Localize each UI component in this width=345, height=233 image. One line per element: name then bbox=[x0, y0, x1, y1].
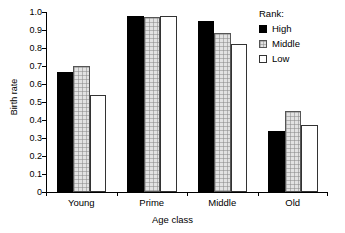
bar-middle-low[interactable] bbox=[231, 44, 248, 192]
legend-label-low: Low bbox=[272, 53, 289, 64]
x-axis-label: Age class bbox=[0, 214, 345, 225]
y-axis-tick bbox=[42, 30, 47, 31]
x-axis-tick bbox=[258, 192, 259, 196]
legend-label-high: High bbox=[272, 23, 292, 34]
bar-old-high[interactable] bbox=[268, 131, 285, 192]
bar-prime-high[interactable] bbox=[127, 16, 144, 192]
x-axis-category-label-old: Old bbox=[258, 197, 329, 208]
y-axis-tick-label: 0.4 bbox=[18, 116, 42, 125]
y-axis-tick-label: 0 bbox=[18, 188, 42, 197]
x-axis-tick bbox=[46, 192, 47, 196]
bar-old-low[interactable] bbox=[301, 125, 318, 192]
legend-title: Rank: bbox=[259, 8, 343, 19]
y-axis-tick-label: 0.1 bbox=[18, 170, 42, 179]
legend-item-high: High bbox=[259, 23, 343, 34]
x-axis-category-label-young: Young bbox=[46, 197, 117, 208]
y-axis-tick bbox=[42, 48, 47, 49]
x-axis-tick bbox=[117, 192, 118, 196]
y-axis-tick-labels: 00.10.20.30.40.50.60.70.80.91.0 bbox=[18, 0, 42, 233]
x-axis-tick bbox=[327, 192, 328, 196]
bar-prime-low[interactable] bbox=[160, 16, 177, 192]
bar-group-prime bbox=[127, 12, 177, 192]
bar-young-middle[interactable] bbox=[73, 66, 90, 192]
y-axis-tick-label: 0.6 bbox=[18, 80, 42, 89]
y-axis-tick-label: 0.2 bbox=[18, 152, 42, 161]
y-axis-tick bbox=[42, 66, 47, 67]
bar-old-middle[interactable] bbox=[285, 111, 302, 192]
legend-swatch-middle-icon bbox=[259, 40, 267, 48]
legend-label-middle: Middle bbox=[272, 38, 300, 49]
y-axis-tick-label: 1.0 bbox=[18, 8, 42, 17]
bar-middle-high[interactable] bbox=[198, 21, 215, 192]
y-axis-tick-label: 0.7 bbox=[18, 62, 42, 71]
legend-swatch-low-icon bbox=[259, 55, 267, 63]
y-axis-tick-label: 0.5 bbox=[18, 98, 42, 107]
x-axis-tick bbox=[187, 192, 188, 196]
y-axis-tick bbox=[42, 12, 47, 13]
bar-prime-middle[interactable] bbox=[144, 17, 161, 192]
y-axis-tick bbox=[42, 138, 47, 139]
legend-item-low: Low bbox=[259, 53, 343, 64]
x-axis-category-label-prime: Prime bbox=[117, 197, 188, 208]
y-axis-tick bbox=[42, 84, 47, 85]
y-axis-tick bbox=[42, 120, 47, 121]
legend-swatch-high-icon bbox=[259, 25, 267, 33]
bar-middle-middle[interactable] bbox=[214, 33, 231, 192]
y-axis-tick-label: 0.3 bbox=[18, 134, 42, 143]
y-axis-tick bbox=[42, 156, 47, 157]
bar-young-low[interactable] bbox=[90, 95, 107, 192]
legend: Rank: High Middle Low bbox=[259, 8, 343, 68]
x-axis-category-label-middle: Middle bbox=[187, 197, 258, 208]
bar-group-young bbox=[57, 12, 107, 192]
y-axis-tick-label: 0.8 bbox=[18, 44, 42, 53]
y-axis-tick bbox=[42, 102, 47, 103]
y-axis-tick-label: 0.9 bbox=[18, 26, 42, 35]
birth-rate-bar-chart: Birth rate 00.10.20.30.40.50.60.70.80.91… bbox=[0, 0, 345, 233]
bar-young-high[interactable] bbox=[57, 72, 74, 192]
bar-group-middle bbox=[198, 12, 248, 192]
legend-item-middle: Middle bbox=[259, 38, 343, 49]
y-axis-tick bbox=[42, 174, 47, 175]
